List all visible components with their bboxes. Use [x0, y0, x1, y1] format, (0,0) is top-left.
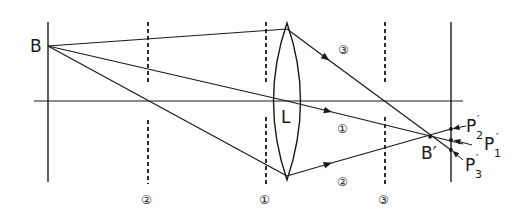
p2-prime-label: P ′ 2: [466, 113, 483, 142]
svg-text:2: 2: [476, 129, 483, 142]
pointer-arrow-p2: [456, 126, 466, 128]
svg-text:P: P: [484, 134, 494, 154]
ray-1-arrow-segment: [287, 101, 328, 111]
ray-2-label: ②: [337, 175, 348, 189]
ray-2-arrow-segment: [287, 164, 328, 176]
p1-prime-label: P ′ 1: [484, 131, 501, 160]
image-point-b-prime: [428, 135, 432, 139]
ray-1-label: ①: [337, 122, 348, 136]
screen-point-p1: [449, 138, 453, 142]
ray-3-incident: [48, 29, 287, 46]
ray-1-incident: [48, 46, 287, 101]
svg-text:′: ′: [476, 152, 479, 165]
pointer-arrow-p3: [455, 153, 463, 160]
p3-prime-label: P ′ 3: [465, 152, 482, 181]
svg-text:′: ′: [496, 131, 499, 144]
ray-1-refracted: [328, 111, 463, 144]
svg-text:P: P: [466, 116, 476, 136]
image-point-label: B′: [421, 143, 437, 163]
svg-text:′: ′: [477, 113, 480, 126]
plane-1-label: ①: [259, 193, 270, 207]
screen-point-p2: [449, 127, 453, 131]
lens-label: L: [281, 107, 291, 127]
plane-2-label: ②: [141, 193, 152, 207]
svg-text:P: P: [465, 155, 475, 175]
ray-2-incident: [48, 46, 287, 176]
screen-point-p3: [449, 148, 453, 152]
ray-3-label: ③: [338, 43, 349, 57]
optical-diagram: B L B′ ② ① ③ ③ ① ② P ′ 2 P ′ 1 P ′ 3: [0, 0, 522, 224]
svg-text:1: 1: [494, 147, 501, 160]
svg-text:3: 3: [475, 168, 482, 181]
object-point-label: B: [30, 36, 42, 56]
plane-3-label: ③: [378, 193, 389, 207]
